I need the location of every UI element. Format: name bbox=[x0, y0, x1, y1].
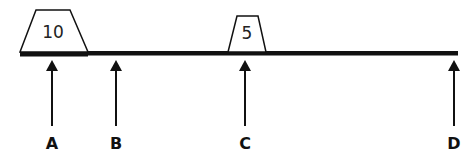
point-label: A bbox=[46, 134, 59, 153]
arrow-head bbox=[46, 60, 58, 71]
point-b: B bbox=[110, 60, 122, 153]
arrow-head bbox=[239, 60, 251, 71]
point-d: D bbox=[447, 60, 460, 153]
point-a: A bbox=[46, 60, 59, 153]
point-c: C bbox=[239, 60, 251, 153]
point-label: C bbox=[239, 134, 251, 153]
point-label: D bbox=[447, 134, 460, 153]
block-weight-label: 5 bbox=[242, 23, 253, 43]
arrow-head bbox=[110, 60, 122, 71]
block-weight-label: 10 bbox=[42, 22, 64, 42]
beam-diagram: 10 5 A B C D bbox=[0, 0, 476, 162]
load-block-5: 5 bbox=[228, 16, 266, 52]
arrow-head bbox=[448, 60, 460, 71]
point-label: B bbox=[110, 134, 122, 153]
load-block-10: 10 bbox=[20, 10, 88, 52]
